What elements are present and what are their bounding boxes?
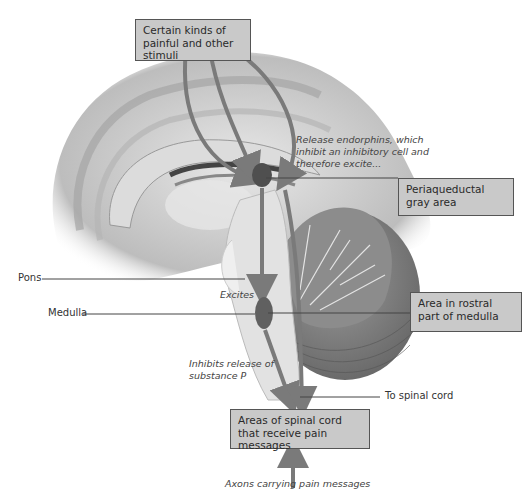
brain-diagram: Certain kinds of painful and other stimu… [0, 0, 532, 500]
periaqueductal-box: Periaqueductal gray area [398, 178, 514, 216]
rostral-medulla-box: Area in rostral part of medulla [410, 292, 522, 332]
axons-annotation: Axons carrying pain messages [225, 478, 370, 490]
pons-label: Pons [18, 272, 41, 283]
inhibits-release-annotation: Inhibits release of substance P [189, 358, 279, 382]
to-spinal-cord-label: To spinal cord [385, 390, 453, 401]
excites-annotation: Excites [220, 289, 254, 301]
release-endorphins-annotation: Release endorphins, which inhibit an inh… [296, 134, 436, 170]
spinal-cord-areas-box: Areas of spinal cord that receive pain m… [230, 409, 370, 449]
stimuli-box: Certain kinds of painful and other stimu… [135, 19, 251, 61]
periaqueductal-nucleus [252, 163, 272, 187]
medulla-label: Medulla [48, 307, 87, 318]
